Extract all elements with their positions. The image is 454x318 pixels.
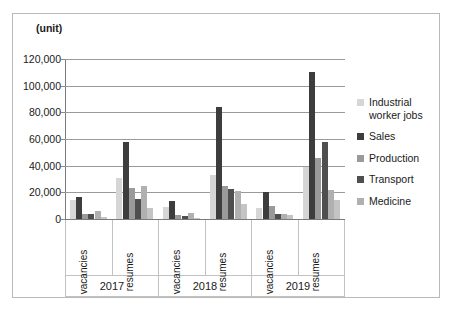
bar (216, 107, 222, 219)
category-axis-cell: resumes (206, 220, 253, 276)
y-axis-tick-label: 20,000 (29, 187, 61, 197)
bar (70, 200, 76, 219)
legend-item[interactable]: Production (357, 152, 449, 165)
year-axis-cell: 2019 (252, 276, 345, 297)
bar (135, 199, 141, 219)
bar (210, 175, 216, 219)
bar (163, 207, 169, 219)
bar (116, 178, 122, 219)
year-axis-cell: 2017 (65, 276, 159, 297)
y-axis-title: (unit) (36, 22, 62, 34)
legend-item[interactable]: Industrial worker jobs (357, 96, 449, 121)
year-axis-cell: 2018 (159, 276, 252, 297)
bar (309, 72, 315, 219)
legend-item[interactable]: Transport (357, 173, 449, 186)
category-axis: vacanciesresumesvacanciesresumesvacancie… (65, 220, 345, 297)
y-axis-tick-labels: 120,000100,00080,00060,00040,00020,0000 (13, 59, 61, 219)
bar (315, 158, 321, 219)
category-axis-subrow: vacanciesresumesvacanciesresumesvacancie… (65, 220, 345, 276)
category-axis-cell: resumes (299, 220, 346, 276)
bar (228, 189, 234, 219)
legend-label: Production (369, 152, 419, 165)
legend-item[interactable]: Sales (357, 130, 449, 143)
bar (328, 190, 334, 219)
category-axis-cell: vacancies (252, 220, 299, 276)
y-axis-tick-label: 40,000 (29, 161, 61, 171)
bar (141, 186, 147, 219)
category-axis-cell: vacancies (159, 220, 206, 276)
category-axis-yearrow: 201720182019 (65, 276, 345, 297)
legend-swatch-icon (357, 99, 364, 106)
legend-label: Sales (369, 130, 395, 143)
legend-swatch-icon (357, 198, 364, 205)
legend-swatch-icon (357, 176, 364, 183)
bar (334, 200, 340, 219)
bar (123, 142, 129, 219)
legend: Industrial worker jobsSalesProductionTra… (357, 96, 449, 216)
y-axis-tick-label: 120,000 (23, 54, 61, 64)
year-axis-label: 2018 (193, 280, 217, 292)
legend-label: Transport (369, 173, 414, 186)
bar (263, 192, 269, 219)
bar (269, 206, 275, 219)
category-axis-cell: resumes (113, 220, 160, 276)
bar (95, 211, 101, 219)
bar-group (65, 59, 112, 219)
bar (256, 208, 262, 219)
plot-area (65, 59, 345, 219)
bar (76, 197, 82, 219)
bar (129, 188, 135, 219)
legend-swatch-icon (357, 155, 364, 162)
bar-group (205, 59, 252, 219)
bar (303, 167, 309, 219)
year-axis-label: 2019 (286, 280, 310, 292)
y-axis-tick-label: 60,000 (29, 134, 61, 144)
legend-swatch-icon (357, 133, 364, 140)
bar (241, 204, 247, 219)
bar (235, 191, 241, 219)
chart-frame: (unit) 120,000100,00080,00060,00040,0002… (12, 13, 440, 298)
bar (147, 208, 153, 219)
year-axis-label: 2017 (100, 280, 124, 292)
bar-group (252, 59, 299, 219)
bar-group (298, 59, 345, 219)
legend-label: Industrial worker jobs (369, 96, 423, 121)
bar-group (158, 59, 205, 219)
category-axis-cell: vacancies (65, 220, 113, 276)
bar (169, 201, 175, 219)
bar-group (112, 59, 159, 219)
y-axis-tick-label: 100,000 (23, 81, 61, 91)
bar (222, 186, 228, 219)
y-axis-tick-label: 0 (55, 214, 61, 224)
y-axis-tick-label: 80,000 (29, 107, 61, 117)
legend-label: Medicine (369, 195, 411, 208)
legend-item[interactable]: Medicine (357, 195, 449, 208)
bar (322, 142, 328, 219)
